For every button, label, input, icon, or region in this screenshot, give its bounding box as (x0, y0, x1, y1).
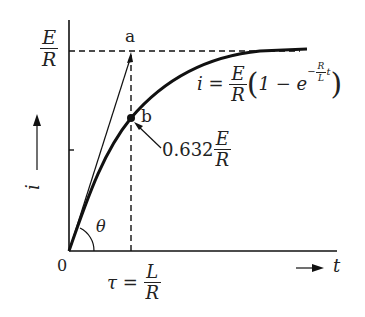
tau-lhs: τ = (107, 272, 138, 293)
tau-label: τ = LR (107, 263, 161, 302)
y-label-arrowhead (33, 114, 41, 126)
t-label-arrowhead (312, 264, 324, 272)
point-a-label: a (125, 28, 135, 45)
exponent-den: L (316, 72, 326, 83)
y-axis-label: i (24, 184, 42, 190)
equation-body: 1 − e (259, 73, 308, 94)
theta-arc (80, 228, 94, 251)
equation-close-paren: ) (330, 66, 342, 101)
point-b-label: b (141, 108, 152, 125)
y-max-num: E (40, 28, 58, 48)
point-b-den: R (214, 149, 232, 169)
point-b-value: 0.632ER (162, 130, 231, 169)
y-max-label: ER (40, 28, 58, 69)
tangent-arrowhead (127, 52, 133, 63)
point-b-num: E (214, 130, 231, 149)
point-b-marker (127, 114, 135, 122)
point-b-coef: 0.632 (162, 139, 214, 160)
tau-den: R (144, 282, 162, 302)
equation-open-paren: ( (247, 66, 259, 101)
y-max-den: R (40, 48, 58, 69)
leader-line (137, 125, 161, 148)
tau-num: L (144, 263, 160, 282)
exponent-num: R (316, 62, 327, 72)
origin-label: 0 (57, 258, 67, 274)
equation-den: R (229, 84, 247, 104)
x-axis-label: t (333, 257, 340, 275)
equation-num: E (230, 65, 247, 84)
equation-exponent: −RLt (307, 66, 330, 77)
current-equation: i = ER(1 − e−RLt) (197, 62, 342, 104)
exponent-sign: − (307, 66, 315, 77)
equation-lhs: i = (197, 73, 224, 94)
theta-label: θ (96, 219, 106, 235)
